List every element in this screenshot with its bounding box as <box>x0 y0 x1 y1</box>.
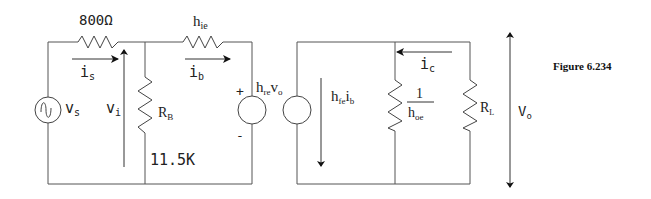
h-re-voltage-source <box>238 96 266 124</box>
label-h-ie: hie <box>193 13 208 31</box>
figure-caption: Figure 6.234 <box>553 60 612 72</box>
label-r-b: RB <box>158 105 173 122</box>
circuit-diagram: 800Ω hie is ib vs vi RB 11.5K + - hrevo … <box>0 0 651 199</box>
r-b-resistor <box>138 77 152 133</box>
output-loop-wires <box>297 42 470 184</box>
r-l-resistor <box>463 80 477 131</box>
label-h-oe: hoe <box>408 105 424 122</box>
h-fe-current-source <box>283 96 311 124</box>
label-r-b-value: 11.5K <box>150 151 195 169</box>
label-v-s: vs <box>65 99 80 118</box>
label-minus: - <box>236 128 244 143</box>
label-i-b: ib <box>189 63 204 82</box>
label-one: 1 <box>416 86 423 101</box>
label-v-o: Vo <box>518 103 532 121</box>
label-v-i: vi <box>106 99 121 118</box>
label-800ohm: 800Ω <box>79 12 113 28</box>
label-i-s: is <box>80 63 95 82</box>
series-resistor-800ohm <box>78 36 118 48</box>
ac-voltage-source <box>35 97 61 123</box>
h-oe-resistor <box>388 80 402 131</box>
h-ie-resistor <box>183 36 223 48</box>
label-r-l: RL <box>480 100 494 117</box>
label-h-re-v-o: hrevo <box>256 79 283 97</box>
label-i-c: ic <box>420 55 435 74</box>
label-plus: + <box>236 84 244 99</box>
label-h-fe-i-b: hfeib <box>331 88 355 106</box>
